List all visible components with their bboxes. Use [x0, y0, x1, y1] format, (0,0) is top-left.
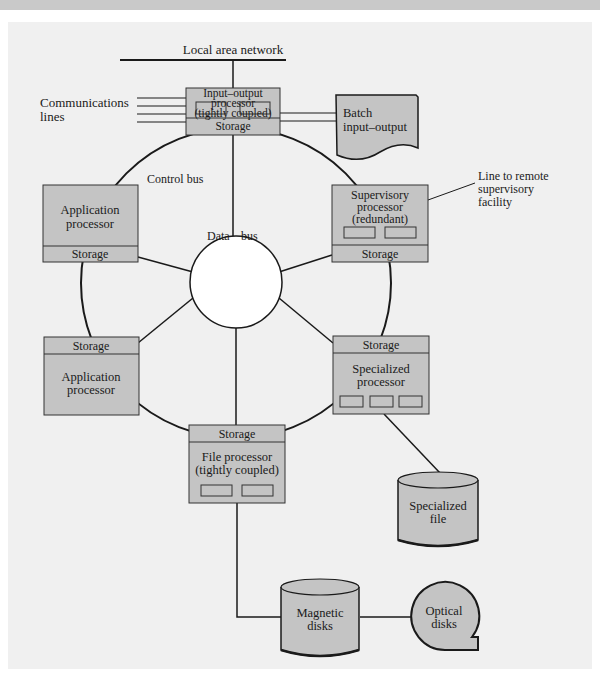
svg-text:(tightly coupled): (tightly coupled)	[195, 107, 272, 120]
svg-text:Specialized: Specialized	[409, 499, 467, 513]
file-slot-2	[242, 485, 273, 496]
lan-label: Local area network	[183, 42, 284, 57]
file-processor[interactable]: Storage File processor (tightly coupled)	[189, 425, 285, 503]
specialized-processor[interactable]: Storage Specialized processor	[333, 336, 429, 414]
batch-io-document[interactable]: Batch input–output	[336, 95, 418, 159]
svg-text:Optical: Optical	[426, 604, 463, 618]
remote-label-2: supervisory	[478, 182, 534, 196]
comm-lines-label-1: Communications	[40, 95, 129, 110]
io-processor[interactable]: Input–output processor Storage (tightly …	[186, 87, 280, 135]
magnetic-disks-cylinder[interactable]: Magnetic disks	[281, 579, 359, 656]
svg-text:File processor: File processor	[202, 450, 273, 464]
data-bus-label-1: Data	[207, 229, 230, 243]
svg-text:disks: disks	[307, 619, 333, 633]
data-bus-hub	[190, 236, 282, 328]
remote-label-1: Line to remote	[478, 169, 549, 183]
svg-text:Magnetic: Magnetic	[296, 606, 344, 620]
svg-text:Batch: Batch	[343, 106, 373, 120]
svg-text:processor: processor	[67, 383, 116, 397]
svg-text:(redundant): (redundant)	[352, 212, 408, 226]
application-processor-bottom[interactable]: Storage Application processor	[44, 337, 139, 415]
svg-text:Storage: Storage	[362, 247, 399, 261]
svg-text:input–output: input–output	[343, 120, 407, 134]
supervisory-slot-1	[344, 227, 375, 238]
specialized-slot-3	[399, 396, 422, 407]
remote-label-3: facility	[478, 195, 512, 209]
application-processor-top[interactable]: Application processor Storage	[43, 185, 138, 262]
svg-text:Application: Application	[61, 370, 121, 384]
svg-text:Storage: Storage	[363, 338, 400, 352]
io-storage-label: Storage	[215, 120, 250, 133]
svg-text:(tightly coupled): (tightly coupled)	[195, 463, 279, 477]
optical-disks[interactable]: Optical disks	[411, 582, 479, 650]
svg-text:Application: Application	[60, 203, 120, 217]
specialized-file-cylinder[interactable]: Specialized file	[398, 472, 478, 546]
data-bus-label-2: bus	[241, 229, 258, 243]
svg-text:processor: processor	[357, 375, 406, 389]
comm-lines-label-2: lines	[40, 109, 65, 124]
svg-text:Specialized: Specialized	[352, 362, 410, 376]
svg-text:Storage: Storage	[73, 339, 110, 353]
supervisory-slot-2	[385, 227, 416, 238]
supervisory-processor[interactable]: Supervisory processor (redundant) Storag…	[332, 185, 428, 262]
svg-text:disks: disks	[431, 617, 457, 631]
specialized-slot-1	[340, 396, 363, 407]
remote-line	[428, 183, 475, 200]
svg-text:Storage: Storage	[219, 427, 256, 441]
network-diagram: Local area network Communications lines …	[0, 0, 600, 691]
svg-text:file: file	[430, 512, 447, 526]
svg-text:Storage: Storage	[72, 247, 109, 261]
communications-lines	[137, 98, 186, 122]
file-slot-1	[201, 485, 232, 496]
svg-text:processor: processor	[66, 217, 115, 231]
control-bus-label: Control bus	[147, 172, 204, 186]
specialized-slot-2	[370, 396, 393, 407]
